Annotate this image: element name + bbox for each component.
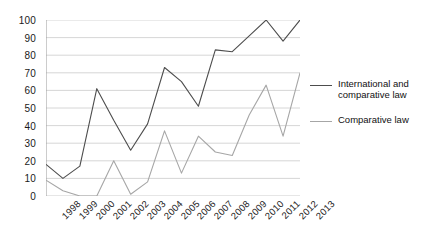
y-axis: 0102030405060708090100 — [0, 20, 40, 196]
y-tick-label: 80 — [24, 50, 36, 61]
y-tick-label: 50 — [24, 103, 36, 114]
y-tick-label: 10 — [24, 173, 36, 184]
legend-swatch-international-and-comparative-law — [310, 81, 332, 91]
legend-label-international-and-comparative-law: International and comparative law — [338, 78, 420, 100]
legend-entry-comparative-law: Comparative law — [310, 114, 420, 127]
x-axis: 1998199920002001200220032004200520062007… — [46, 198, 300, 246]
y-tick-label: 0 — [30, 191, 36, 202]
series-line — [46, 20, 300, 178]
legend-swatch-comparative-law — [310, 117, 332, 127]
y-tick-label: 90 — [24, 32, 36, 43]
y-tick-label: 20 — [24, 155, 36, 166]
y-tick-label: 70 — [24, 67, 36, 78]
y-tick-label: 100 — [19, 15, 36, 26]
plot-area — [46, 20, 300, 196]
y-tick-label: 60 — [24, 85, 36, 96]
legend-label-comparative-law: Comparative law — [338, 114, 409, 125]
series-lines — [46, 20, 300, 196]
x-tick-label: 2013 — [313, 198, 336, 221]
chart-legend: International and comparative law Compar… — [310, 78, 420, 141]
y-tick-label: 40 — [24, 120, 36, 131]
chart-screenshot: 0102030405060708090100 19981999200020012… — [0, 0, 423, 249]
legend-entry-international-and-comparative-law: International and comparative law — [310, 78, 420, 100]
y-tick-label: 30 — [24, 138, 36, 149]
series-line — [46, 73, 300, 196]
